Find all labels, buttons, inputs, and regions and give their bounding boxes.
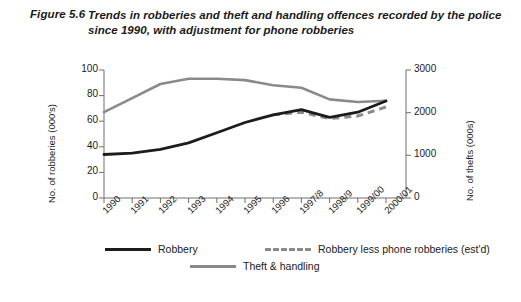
legend-swatch-robbery-icon [105, 244, 151, 254]
figure-title: Trends in robberies and theft and handli… [88, 8, 510, 38]
chart-svg [0, 58, 521, 218]
figure-caption: Figure 5.6 Trends in robberies and theft… [30, 8, 510, 38]
figure-number: Figure 5.6 [30, 8, 88, 20]
legend-item-robbery-less-phone: Robbery less phone robberies (est'd) [265, 243, 490, 255]
legend-item-robbery: Robbery [105, 243, 198, 255]
figure-root: Figure 5.6 Trends in robberies and theft… [0, 0, 521, 302]
legend-swatch-theft-handling-icon [190, 261, 236, 271]
legend-swatch-robbery-less-phone-icon [265, 244, 311, 254]
series-robbery-line [104, 101, 386, 155]
legend-item-theft-handling: Theft & handling [190, 260, 319, 272]
legend-label-theft-handling: Theft & handling [243, 260, 319, 272]
series-theft-handling-line [104, 79, 386, 112]
y-axis-left-ticks [99, 70, 104, 198]
chart-plot-area: No. of robberies (000's) No. of thefts (… [0, 58, 521, 218]
y-axis-right-ticks [406, 70, 411, 198]
legend-label-robbery: Robbery [158, 243, 198, 255]
chart-legend: Robbery Robbery less phone robberies (es… [0, 243, 521, 283]
legend-label-robbery-less-phone: Robbery less phone robberies (est'd) [318, 243, 490, 255]
